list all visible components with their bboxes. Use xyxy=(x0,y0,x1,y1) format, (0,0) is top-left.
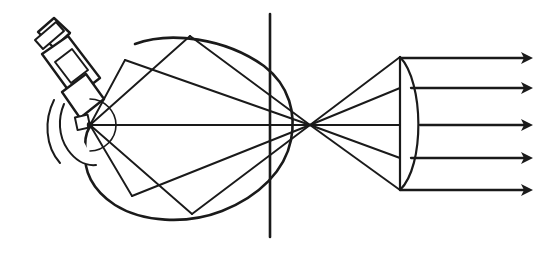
lamp-housing xyxy=(35,18,104,165)
ray-source-to-reflector-3 xyxy=(90,125,192,214)
plano-convex-lens xyxy=(400,57,418,190)
optical-diagram-figure: Optical illumination system schematic xyxy=(0,0,555,253)
ray-source-to-reflector-4 xyxy=(90,125,132,196)
rays-focus-to-lens xyxy=(310,57,400,190)
ray-focus-to-lens-4 xyxy=(310,125,400,158)
ray-reflector-to-focus-3 xyxy=(192,125,310,214)
ray-reflector-to-focus-1 xyxy=(190,36,310,125)
source-box xyxy=(75,115,90,130)
output-beam xyxy=(400,52,533,196)
diagram-canvas: Optical illumination system schematic xyxy=(0,0,555,253)
ray-focus-to-lens-5 xyxy=(310,125,400,190)
lens-convex-face xyxy=(400,57,418,190)
lamp-shoulder-outer xyxy=(47,100,60,163)
ray-focus-to-lens-1 xyxy=(310,57,400,125)
ray-source-to-reflector-1 xyxy=(90,36,190,125)
ray-focus-to-lens-2 xyxy=(310,88,400,125)
ray-reflector-to-focus-2 xyxy=(125,60,310,125)
